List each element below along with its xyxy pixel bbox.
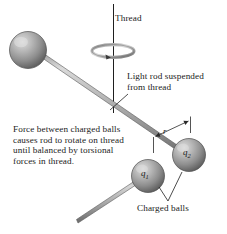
label-charge-q2: q2 (183, 147, 191, 159)
label-charge-q2-subscript: 2 (188, 152, 191, 159)
label-separation-r: r (163, 126, 166, 136)
label-force-note: Force between charged balls causes rod t… (13, 124, 124, 166)
uncharged-ball-left (10, 32, 47, 69)
label-charge-q1-subscript: 1 (146, 173, 149, 180)
label-charge-q1: q1 (141, 168, 149, 180)
label-charged-balls: Charged balls (137, 203, 189, 214)
label-light-rod-suspended: Light rod suspended from thread (127, 71, 204, 92)
label-thread: Thread (115, 13, 142, 24)
torsion-balance-figure: Thread Light rod suspended from thread F… (0, 0, 227, 234)
figure-artwork (0, 0, 227, 234)
